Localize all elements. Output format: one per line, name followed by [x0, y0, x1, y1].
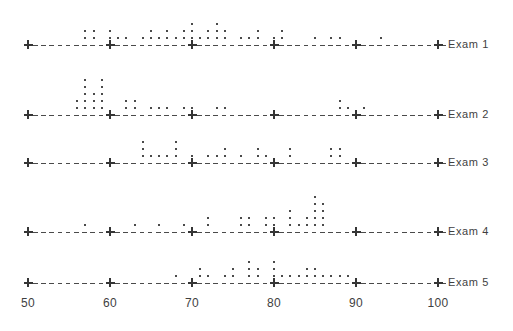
axis-tick-marker: [106, 40, 115, 49]
data-dot: [306, 217, 308, 219]
data-dot: [93, 107, 95, 109]
data-dot: [166, 107, 168, 109]
data-dot: [101, 100, 103, 102]
data-dot: [289, 148, 291, 150]
axis-dash: [402, 283, 407, 285]
axis-dash: [263, 163, 268, 165]
axis-tick-marker: [24, 40, 33, 49]
axis-dash: [386, 115, 391, 117]
axis-dash: [41, 163, 46, 165]
axis-dash: [58, 163, 63, 165]
axis-dash: [99, 232, 104, 234]
data-dot: [273, 37, 275, 39]
axis-tick-marker: [24, 278, 33, 287]
axis-dash: [320, 115, 325, 117]
data-dot: [289, 217, 291, 219]
data-dot: [93, 37, 95, 39]
axis-dash: [140, 45, 145, 47]
axis-dash: [115, 283, 120, 285]
series-label-2: Exam 2: [448, 108, 489, 120]
data-dot: [166, 37, 168, 39]
axis-dash: [82, 115, 87, 117]
axis-dash: [197, 45, 202, 47]
axis-dash: [230, 163, 235, 165]
data-dot: [93, 100, 95, 102]
data-dot: [257, 37, 259, 39]
axis-dash: [410, 45, 415, 47]
axis-dash: [361, 163, 366, 165]
axis-dash: [336, 163, 341, 165]
axis-dash: [254, 163, 259, 165]
data-dot: [125, 100, 127, 102]
axis-dash: [263, 283, 268, 285]
data-dot: [84, 224, 86, 226]
data-dot: [84, 86, 86, 88]
data-dot: [347, 275, 349, 277]
data-dot: [84, 107, 86, 109]
axis-dash: [238, 283, 243, 285]
axis-dash: [82, 163, 87, 165]
axis-dash: [164, 163, 169, 165]
axis-dash: [41, 283, 46, 285]
data-dot: [240, 37, 242, 39]
axis-dash: [49, 232, 54, 234]
data-dot: [224, 37, 226, 39]
axis-dash: [66, 115, 71, 117]
axis-dash: [402, 45, 407, 47]
axis-dash: [213, 232, 218, 234]
axis-dash: [33, 115, 38, 117]
data-dot: [125, 107, 127, 109]
data-dot: [175, 155, 177, 157]
axis-dash: [140, 163, 145, 165]
axis-dash: [164, 283, 169, 285]
data-dot: [199, 37, 201, 39]
axis-dash: [312, 115, 317, 117]
data-dot: [183, 224, 185, 226]
axis-dash: [66, 45, 71, 47]
axis-dash: [369, 283, 374, 285]
data-dot: [224, 107, 226, 109]
axis-dash: [320, 232, 325, 234]
axis-dash: [328, 45, 333, 47]
data-dot: [175, 148, 177, 150]
axis-dash: [304, 115, 309, 117]
data-dot: [158, 107, 160, 109]
axis-dash: [74, 232, 79, 234]
data-dot: [216, 155, 218, 157]
data-dot: [314, 37, 316, 39]
axis-dash: [377, 163, 382, 165]
axis-dash: [238, 45, 243, 47]
axis-dash: [205, 163, 210, 165]
data-dot: [166, 155, 168, 157]
axis-tick-marker: [106, 158, 115, 167]
data-dot: [289, 155, 291, 157]
data-dot: [207, 217, 209, 219]
data-dot: [314, 224, 316, 226]
axis-dash: [246, 115, 251, 117]
axis-dash: [345, 283, 350, 285]
axis-tick-marker: [188, 278, 197, 287]
axis-dash: [115, 232, 120, 234]
data-dot: [216, 23, 218, 25]
axis-tick-marker: [434, 40, 443, 49]
data-dot: [289, 224, 291, 226]
axis-dash: [74, 45, 79, 47]
series-label-1: Exam 1: [448, 38, 489, 50]
data-dot: [191, 30, 193, 32]
data-dot: [207, 155, 209, 157]
axis-dash: [33, 45, 38, 47]
data-dot: [322, 224, 324, 226]
axis-dash: [123, 232, 128, 234]
data-dot: [306, 268, 308, 270]
data-dot: [93, 93, 95, 95]
axis-dash: [312, 283, 317, 285]
data-dot: [199, 268, 201, 270]
axis-dash: [181, 232, 186, 234]
data-dot: [84, 100, 86, 102]
axis-dash: [279, 163, 284, 165]
axis-dash: [254, 232, 259, 234]
axis-dash: [33, 283, 38, 285]
axis-dash: [377, 115, 382, 117]
data-dot: [380, 37, 382, 39]
axis-dash: [205, 283, 210, 285]
